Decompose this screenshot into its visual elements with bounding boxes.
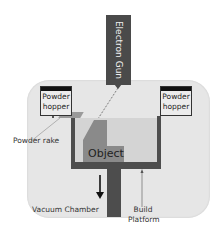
- build-box-right-wall: [157, 116, 161, 166]
- hopper-label-line1: Powder: [161, 92, 191, 102]
- powder-hopper-right: Powder hopper: [160, 86, 192, 116]
- hopper-label-line1: Powder: [41, 92, 71, 102]
- hopper-label: Powder hopper: [161, 91, 191, 112]
- electron-gun: Electron Gun: [106, 15, 131, 85]
- powder-hopper-left: Powder hopper: [40, 86, 72, 116]
- object-label: Object: [88, 147, 124, 160]
- electron-gun-tip-icon: [114, 84, 122, 89]
- arrow-head-icon: [96, 192, 104, 199]
- platform-shaft: [107, 169, 121, 217]
- build-platform: [71, 162, 161, 169]
- vacuum-chamber-label: Vacuum Chamber: [32, 205, 99, 214]
- build-platform-label-line2: Platform: [128, 215, 158, 225]
- build-platform-label: Build Platform: [128, 205, 158, 225]
- hopper-label: Powder hopper: [41, 91, 71, 112]
- build-platform-label-line1: Build: [128, 205, 158, 215]
- hopper-label-line2: hopper: [41, 102, 71, 112]
- rake-joint: [52, 116, 54, 118]
- electron-gun-label: Electron Gun: [114, 21, 124, 79]
- build-box-left-wall: [71, 116, 75, 166]
- pointer-head-icon: [141, 169, 144, 173]
- powder-rake-label: Powder rake: [13, 136, 59, 145]
- hopper-label-line2: hopper: [161, 102, 191, 112]
